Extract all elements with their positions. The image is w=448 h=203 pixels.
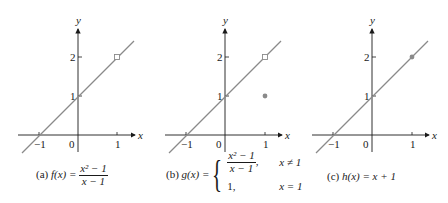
tick-label-neg1: −1: [181, 138, 193, 150]
case-condition: x ≠ 1: [279, 156, 301, 168]
caption-prefix: (c): [327, 170, 339, 182]
graph-b: y x −1 0 1 1 2: [165, 14, 290, 153]
graph-a: y x −1 0 1 1 2: [18, 14, 143, 153]
tick-label-y2: 2: [70, 51, 76, 63]
tick-label-0: 0: [363, 138, 369, 150]
case-row-1: x² − 1 x − 1 , x ≠ 1: [227, 150, 302, 174]
denominator: x − 1: [227, 163, 256, 175]
caption-c: (c) h(x) = x + 1: [327, 170, 396, 182]
caption-a: (a) f(x) = x² − 1 x − 1: [36, 163, 108, 187]
tick-label-1: 1: [263, 138, 269, 150]
case-value: 1,: [227, 180, 279, 192]
tick-label-y2: 2: [217, 51, 223, 63]
filled-point: [263, 94, 268, 99]
tick-label-0: 0: [216, 138, 222, 150]
function-name: g(x) =: [182, 168, 210, 180]
caption-prefix: (b): [166, 168, 179, 180]
filled-point: [410, 55, 415, 60]
open-point: [115, 55, 120, 60]
axis-label-x: x: [137, 129, 143, 141]
open-point: [263, 55, 268, 60]
brace: {: [212, 155, 222, 193]
caption-b: (b) g(x) = { x² − 1 x − 1 , x ≠ 1 1, x =…: [166, 150, 303, 198]
graph-c: y x −1 0 1 1 2: [312, 14, 437, 153]
axis-label-x: x: [431, 129, 437, 141]
function-name: f(x) =: [51, 168, 76, 180]
axis-label-y: y: [75, 14, 81, 26]
tick-label-neg1: −1: [34, 138, 46, 150]
tick-label-0: 0: [69, 138, 75, 150]
axis-label-y: y: [369, 14, 375, 26]
function-name: h(x) = x + 1: [342, 170, 396, 182]
axis-label-y: y: [222, 14, 228, 26]
caption-prefix: (a): [36, 168, 48, 180]
numerator: x² − 1: [227, 150, 256, 163]
axis-label-x: x: [284, 129, 290, 141]
tick-label-1: 1: [115, 138, 121, 150]
tick-label-y2: 2: [364, 51, 370, 63]
tick-label-y1: 1: [364, 90, 370, 102]
case-row-2: 1, x = 1: [227, 174, 302, 198]
numerator: x² − 1: [79, 163, 108, 176]
tick-label-1: 1: [410, 138, 416, 150]
tick-label-neg1: −1: [328, 138, 340, 150]
case-condition: x = 1: [279, 180, 302, 192]
tick-label-y1: 1: [70, 90, 76, 102]
tick-label-y1: 1: [217, 90, 223, 102]
piecewise-cases: x² − 1 x − 1 , x ≠ 1 1, x = 1: [227, 150, 302, 198]
fraction: x² − 1 x − 1: [79, 163, 108, 187]
denominator: x − 1: [79, 176, 108, 188]
